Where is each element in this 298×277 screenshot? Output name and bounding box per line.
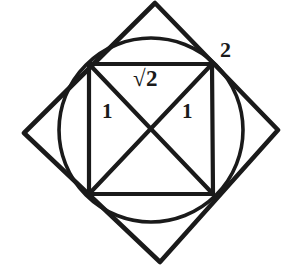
label-leg-right: 1 bbox=[182, 101, 193, 122]
label-outer-diagonal: 2 bbox=[220, 39, 231, 61]
geometry-canvas bbox=[0, 0, 298, 277]
geometry-figure: 2 √2 1 1 bbox=[0, 0, 298, 277]
label-inner-diagonal: √2 bbox=[133, 67, 158, 90]
label-leg-left: 1 bbox=[102, 101, 113, 122]
